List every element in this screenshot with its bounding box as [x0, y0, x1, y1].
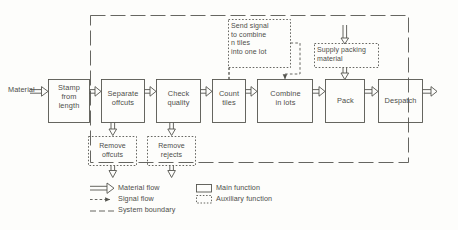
box-pack: [326, 80, 365, 123]
signal-send-signal-to-combine: [285, 43, 300, 79]
box-supply-packing: [315, 44, 379, 68]
flow-count-to-combine: [246, 87, 258, 97]
system-boundary-rect: [91, 16, 409, 163]
box-despatch: [379, 80, 423, 123]
box-remove-rejects: [148, 137, 196, 166]
flow-remove-rejects-out: [168, 166, 176, 178]
flow-despatch-out: [423, 87, 438, 97]
flow-external-packing-in: [341, 25, 349, 44]
flow-separate-to-remove-offcuts: [109, 123, 117, 136]
diagram-canvas: Material Stampfromlength Separateoffcuts…: [0, 0, 458, 230]
flow-remove-offcuts-out: [109, 166, 117, 178]
flow-combine-to-pack: [313, 87, 326, 97]
box-separate: [102, 80, 145, 123]
flow-separate-to-check: [145, 87, 157, 97]
box-stamp: [49, 80, 90, 123]
diagram-vector-layer: [0, 0, 458, 230]
flow-supply-packing-to-pack: [341, 68, 349, 80]
box-check: [157, 80, 201, 123]
flow-check-to-remove-rejects: [168, 123, 176, 136]
box-send-signal: [229, 20, 291, 68]
flow-pack-to-despatch: [365, 87, 379, 97]
flow-check-to-count: [201, 87, 213, 97]
flow-stamp-to-separate: [90, 87, 102, 97]
box-count: [213, 80, 246, 123]
legend-dotted-box-icon: [197, 196, 212, 204]
box-combine: [258, 80, 313, 123]
legend-hollow-arrow-icon: [90, 183, 114, 193]
flow-material-to-stamp: [30, 87, 48, 97]
box-remove-offcuts: [89, 137, 137, 166]
legend-solid-box-icon: [197, 185, 212, 193]
